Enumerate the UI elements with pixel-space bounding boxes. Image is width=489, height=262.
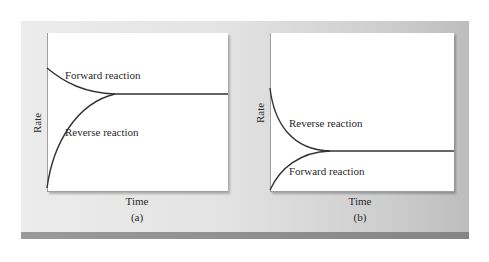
y-axis-label-b: Rate — [254, 93, 266, 123]
panel-label-a: (a) — [117, 211, 157, 223]
chart-a — [47, 33, 228, 192]
forward-reaction-label-a: Forward reaction — [65, 69, 140, 81]
x-axis-label-b: Time — [340, 195, 380, 207]
forward-reaction-label-b: Forward reaction — [289, 165, 364, 177]
figure-bottom-bar — [21, 232, 469, 239]
panel-label-b: (b) — [340, 211, 380, 223]
chart-a-plot — [47, 33, 228, 192]
reverse-reaction-curve-a — [47, 94, 115, 188]
x-axis-label-a: Time — [117, 195, 157, 207]
y-axis-label-a: Rate — [31, 103, 43, 133]
reverse-reaction-label-b: Reverse reaction — [289, 117, 363, 129]
reverse-reaction-label-a: Reverse reaction — [65, 126, 139, 138]
